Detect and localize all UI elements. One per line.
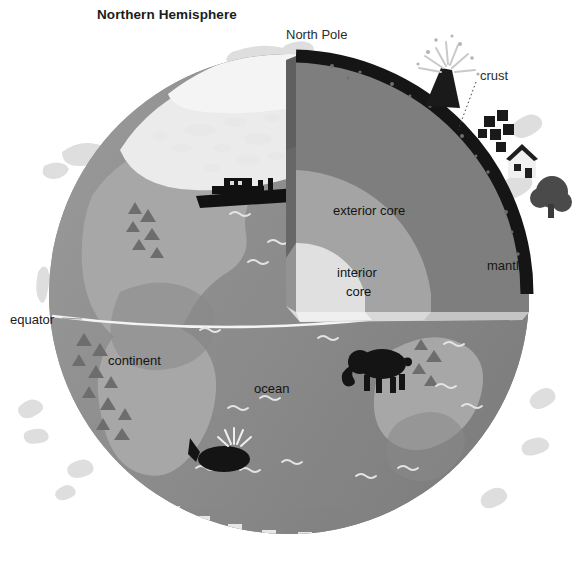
house-icon: [506, 144, 538, 178]
ice-notch: [166, 506, 180, 515]
cut-face-vertical: [286, 56, 296, 312]
label-north-pole: North Pole: [286, 27, 347, 42]
ice-floe-icon: [236, 155, 260, 165]
volcano-eruption: [419, 42, 475, 72]
ice-floe-icon: [264, 114, 280, 122]
ice-floe-icon: [244, 133, 272, 145]
ice-notch: [196, 516, 210, 525]
earth-diagram-svg: [0, 0, 578, 583]
ice-floe-icon: [18, 399, 43, 418]
label-exterior-core: exterior core: [333, 203, 405, 218]
ice-floe-icon: [530, 388, 556, 409]
ice-floe-icon: [43, 162, 69, 179]
ice-floe-icon: [267, 152, 285, 160]
ice-floe-icon: [55, 485, 76, 500]
ice-floe-icon: [511, 114, 542, 138]
ice-floe-icon: [224, 117, 246, 127]
label-interior-core-line2: core: [337, 282, 377, 301]
ice-floe-icon: [522, 437, 549, 455]
crust-leader-line: [458, 82, 476, 130]
page-title: Northern Hemisphere: [97, 7, 237, 22]
ice-notch: [262, 530, 276, 539]
ice-floe-icon: [213, 144, 231, 152]
ice-notch: [398, 516, 412, 525]
ice-notch: [366, 524, 380, 533]
interior-layers: [296, 54, 529, 312]
ice-floe-icon: [152, 132, 168, 140]
ice-cap-shape: [168, 52, 302, 113]
ice-floe-icon: [24, 429, 49, 444]
label-mantle: mantle: [487, 258, 526, 273]
ice-floe-icon: [184, 124, 216, 136]
label-interior-core-line1: interior: [337, 265, 377, 280]
label-equator: equator: [10, 312, 54, 327]
ice-notch: [228, 524, 242, 533]
tree-icon: [530, 176, 572, 218]
ice-floe-icon: [481, 488, 508, 509]
ice-notch: [332, 530, 346, 539]
label-interior-core: interiorcore: [337, 263, 377, 301]
ice-notch: [298, 532, 312, 541]
ice-floe-icon: [172, 144, 192, 152]
ice-floe-icon: [204, 164, 220, 172]
label-crust: crust: [480, 68, 508, 83]
ice-notch: [428, 504, 442, 513]
ice-floe-icon: [36, 266, 49, 302]
label-continent: continent: [108, 353, 161, 368]
ice-floe-icon: [67, 459, 93, 477]
earth-cross-section-figure: Northern Hemisphere North Pole crust man…: [0, 0, 578, 583]
label-ocean: ocean: [254, 381, 289, 396]
